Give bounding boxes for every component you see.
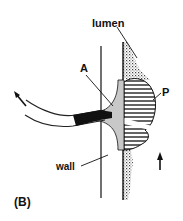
label-p: P [162,87,169,98]
lumen-surface-upper [123,42,150,80]
leader-wall [81,155,108,166]
diagram-drawing [0,0,183,221]
label-lumen: lumen [92,18,124,29]
plug-p [124,79,156,150]
label-wall: wall [56,162,75,172]
arrow-upper-left-icon [14,91,26,106]
panel-label: (B) [14,196,31,208]
arrow-up-icon [157,152,163,170]
leader-a [86,75,113,106]
diagram-figure: lumen A P wall (B) [0,0,183,221]
label-a: A [80,63,88,74]
lumen-surface-lower [123,150,133,200]
